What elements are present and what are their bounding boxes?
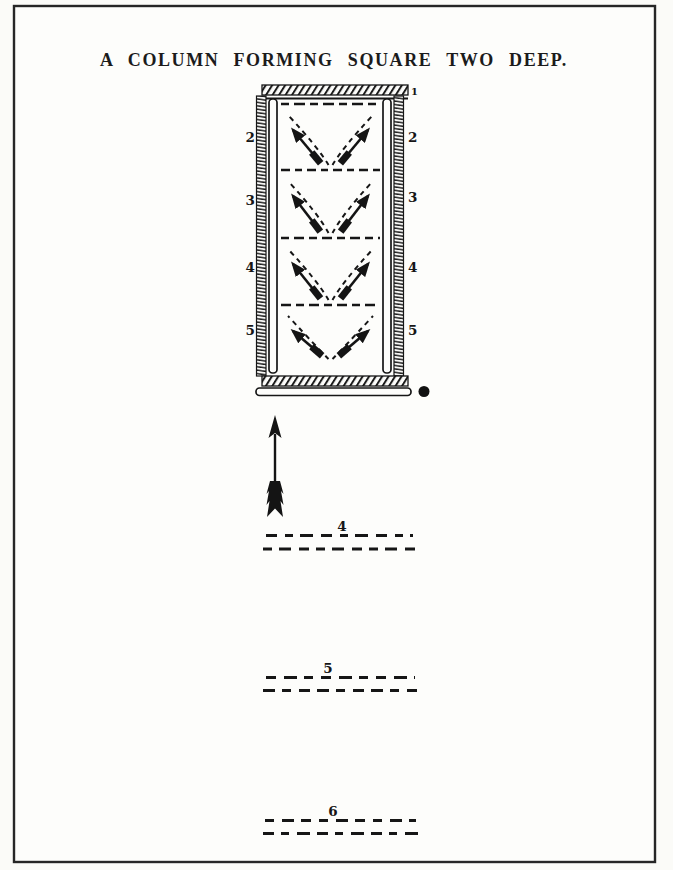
rear-face-bar: [262, 376, 408, 386]
engraving-canvas: A COLUMN FORMING SQUARE TWO DEEP. 1 2 3 …: [0, 0, 673, 870]
figure-title: A COLUMN FORMING SQUARE TWO DEEP.: [100, 50, 568, 70]
left-flank-label-3: 4: [246, 259, 255, 275]
left-flank-label-1: 2: [246, 129, 255, 145]
right-flank-bar: [394, 96, 404, 376]
rear-dot: [419, 386, 430, 397]
left-file-line: [269, 99, 277, 373]
rear-company-label-6: 6: [328, 803, 337, 819]
rear-bar: [256, 388, 411, 396]
front-face-bar: [262, 85, 408, 95]
left-flank-bar: [257, 96, 267, 376]
page-frame: [14, 6, 655, 862]
right-flank-label-3: 4: [408, 259, 417, 275]
front-label: 1: [411, 86, 418, 97]
rear-company-label-5: 5: [323, 660, 332, 676]
right-flank-label-2: 3: [408, 189, 417, 205]
left-flank-label-2: 3: [246, 192, 255, 208]
right-flank-label-4: 5: [408, 322, 417, 338]
left-flank-label-4: 5: [246, 322, 255, 338]
right-file-line: [383, 99, 391, 373]
right-flank-label-1: 2: [408, 129, 417, 145]
rear-company-label-4: 4: [337, 518, 346, 534]
